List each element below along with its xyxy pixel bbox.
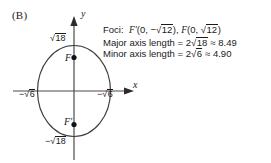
foci-focus1-name: F′	[129, 25, 137, 35]
annotation-line-minor-axis: Minor axis length = 2√6 ≈ 4.90	[103, 48, 271, 60]
radical-symbol-major: √18	[191, 37, 208, 49]
radicand-y-top: 18	[55, 33, 66, 43]
x-axis-label: x	[133, 79, 137, 90]
annotation-line-foci: Foci: F′(0, −√12), F(0, √12)	[103, 24, 271, 37]
foci-focus2-close: )	[218, 24, 221, 35]
radical-symbol-y-bottom: √18	[50, 136, 66, 146]
radical-symbol-x-left: √6	[24, 89, 35, 99]
radicand-minor: 6	[196, 48, 202, 59]
radicand-focus2: 12	[206, 24, 218, 35]
radicand-focus1: 12	[161, 24, 173, 35]
foci-focus1-open: (0, −	[137, 24, 156, 35]
foci-prefix: Foci:	[103, 24, 124, 35]
tick-label-x-right: −√6	[97, 89, 113, 99]
ellipse-figure: (B) y x F F′ √18 −√18 −√6 −√6 Foci: F′(0…	[0, 0, 271, 163]
tick-label-x-left: −√6	[19, 89, 35, 99]
y-axis-arrowhead-icon	[70, 16, 77, 26]
radical-symbol-focus1: √12	[156, 24, 173, 36]
major-axis-result: ≈ 8.49	[208, 37, 237, 48]
foci-focus2-open: (0,	[187, 24, 201, 35]
tick-label-y-bottom: −√18	[45, 136, 66, 146]
annotation-line-major-axis: Major axis length = 2√18 ≈ 8.49	[103, 37, 271, 49]
annotation-callout: Foci: F′(0, −√12), F(0, √12) Major axis …	[103, 24, 271, 60]
minor-axis-result: ≈ 4.90	[202, 48, 231, 59]
focus-label-lower: F′	[64, 116, 72, 127]
foci-focus1-close: ),	[173, 24, 179, 35]
radicand-x-right: 6	[107, 89, 113, 99]
radicand-major: 18	[196, 37, 208, 48]
tick-label-y-top: √18	[50, 33, 66, 43]
radical-symbol-x-right: √6	[102, 89, 113, 99]
radical-symbol-focus2: √12	[201, 24, 218, 36]
major-axis-text: Major axis length = 2	[103, 37, 191, 48]
radicand-y-bottom: 18	[55, 136, 66, 146]
focus-point-upper	[71, 55, 76, 60]
y-axis-label: y	[81, 8, 85, 19]
radical-symbol-y-top: √18	[50, 33, 66, 43]
minor-axis-text: Minor axis length = 2	[103, 48, 191, 59]
focus-label-upper: F	[65, 52, 71, 63]
radicand-x-left: 6	[29, 89, 35, 99]
radical-symbol-minor: √6	[191, 48, 203, 60]
